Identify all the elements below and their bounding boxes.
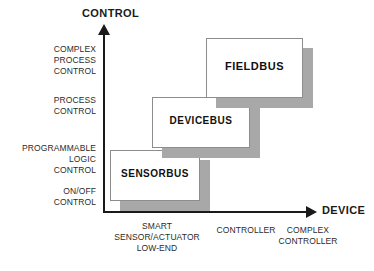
x-axis-arrow-icon — [306, 206, 317, 218]
y-axis-title: CONTROL — [82, 7, 139, 19]
x-axis-tick-label-smart-sensor-actuator-low-end: SMART SENSOR/ACTUATOR LOW-END — [104, 221, 210, 254]
fieldbus-label: FIELDBUS — [206, 60, 303, 72]
y-axis-arrow-icon — [98, 24, 110, 35]
y-axis-line — [103, 33, 105, 213]
x-axis-tick-label-complex-controller: COMPLEX CONTROLLER — [272, 225, 344, 247]
devicebus-label: DEVICEBUS — [152, 115, 250, 126]
sensorbus-label: SENSORBUS — [110, 168, 200, 179]
y-axis-tick-label-process-control: PROCESS CONTROL — [0, 95, 96, 117]
x-axis-title: DEVICE — [322, 204, 365, 216]
x-axis-line — [103, 211, 308, 213]
diagram-canvas: CONTROL DEVICE COMPLEX PROCESS CONTROL P… — [0, 0, 374, 271]
y-axis-tick-label-complex-process-control: COMPLEX PROCESS CONTROL — [0, 44, 96, 77]
y-axis-tick-label-on-off-control: ON/OFF CONTROL — [0, 186, 96, 208]
y-axis-tick-label-programmable-logic-control: PROGRAMMABLE LOGIC CONTROL — [0, 143, 96, 176]
x-axis-tick-label-controller: CONTROLLER — [215, 225, 277, 236]
